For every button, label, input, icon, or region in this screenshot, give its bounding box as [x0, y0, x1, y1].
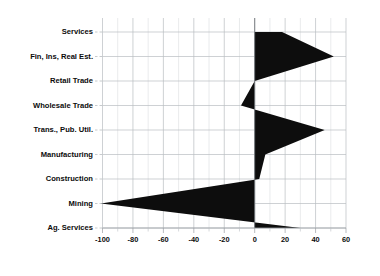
category-label-ag-services: Ag. Services: [47, 223, 93, 232]
x-tick-label-neg40: -40: [188, 235, 199, 244]
category-label-services: Services: [62, 27, 93, 36]
category-label-retail-trade: Retail Trade: [50, 76, 93, 85]
x-tick-label-neg60: -60: [158, 235, 169, 244]
category-label-fin-ins-real-est: Fin, Ins, Real Est.: [30, 52, 93, 61]
x-tick-label-60: 60: [342, 235, 350, 244]
area-chart: Services Fin, Ins, Real Est. Retail Trad…: [0, 0, 380, 276]
x-tick-label-neg100: -100: [95, 235, 110, 244]
x-tick-label-neg20: -20: [219, 235, 230, 244]
chart-container: Services Fin, Ins, Real Est. Retail Trad…: [0, 0, 380, 276]
category-label-mining: Mining: [69, 199, 94, 208]
x-tick-label-0: 0: [253, 235, 257, 244]
category-label-trans-pub-util: Trans., Pub. Util.: [34, 125, 94, 134]
category-label-wholesale-trade: Wholesale Trade: [33, 101, 93, 110]
x-tick-label-20: 20: [281, 235, 289, 244]
x-axis-tick-labels: -100 -80 -60 -40 -20 0 20 40 60: [95, 235, 350, 244]
category-label-manufacturing: Manufacturing: [41, 150, 94, 159]
x-tick-label-40: 40: [311, 235, 319, 244]
category-label-construction: Construction: [46, 174, 94, 183]
x-tick-label-neg80: -80: [128, 235, 139, 244]
